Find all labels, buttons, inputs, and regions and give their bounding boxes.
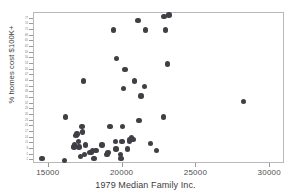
y-axis-tick-label: 38 (25, 90, 28, 93)
data-point (125, 146, 130, 151)
y-axis-tick (29, 52, 33, 53)
data-point (118, 156, 123, 161)
y-axis-tick (29, 35, 33, 36)
y-axis-tick (29, 74, 33, 75)
x-axis-tick (122, 163, 123, 167)
y-axis-tick-label: 23 (25, 118, 28, 121)
y-axis-tick (29, 23, 33, 24)
data-point (166, 12, 171, 17)
data-point (39, 156, 44, 161)
y-axis-tick (29, 108, 33, 109)
data-point (80, 129, 85, 134)
data-point (148, 141, 153, 146)
y-axis-tick (29, 57, 33, 58)
y-axis-tick-label: 14 (25, 135, 28, 138)
x-axis-tick-label: 30000 (258, 168, 281, 177)
data-point (62, 158, 67, 163)
data-point (114, 56, 119, 61)
y-axis-tick (29, 148, 33, 149)
y-axis-tick-label: 59 (25, 50, 28, 53)
y-axis-tick (29, 91, 33, 92)
data-point (121, 86, 126, 91)
y-axis-tick (29, 97, 33, 98)
data-point (113, 139, 118, 144)
y-axis-tick-label: 8 (27, 146, 28, 149)
x-axis-title: 1979 Median Family Inc. (0, 180, 291, 190)
x-axis-tick (48, 163, 49, 167)
y-axis-tick (29, 142, 33, 143)
data-point (83, 142, 88, 147)
y-axis-title: % homes cost $100K+ (7, 5, 16, 125)
data-point (132, 78, 137, 83)
y-axis-tick-label: 71 (25, 27, 28, 30)
y-axis-tick (29, 69, 33, 70)
data-point (79, 124, 84, 129)
y-axis-tick (29, 137, 33, 138)
data-point (111, 27, 116, 32)
y-axis-tick (29, 80, 33, 81)
data-points-layer (34, 13, 283, 162)
y-axis-tick (29, 63, 33, 64)
y-axis-tick-label: 29 (25, 107, 28, 110)
data-point (143, 27, 148, 32)
y-axis-tick-label: 41 (25, 84, 28, 87)
x-axis-tick-label: 20000 (110, 168, 133, 177)
y-axis-tick (29, 86, 33, 87)
y-axis-tick-label: 20 (25, 124, 28, 127)
data-point (122, 67, 127, 72)
data-point (107, 124, 112, 129)
data-point (74, 131, 79, 136)
data-point (163, 27, 168, 32)
data-point (81, 78, 86, 83)
y-axis-tick-label: 68 (25, 33, 28, 36)
data-point (63, 114, 68, 119)
data-point (165, 61, 170, 66)
y-axis-tick (29, 120, 33, 121)
y-axis-tick-label: 11 (25, 141, 28, 144)
data-point (135, 18, 140, 23)
data-point (93, 148, 98, 153)
data-point (120, 124, 125, 129)
y-axis-tick-label: 5 (27, 152, 28, 155)
plot-area (33, 12, 284, 163)
y-axis-tick-label: 2 (27, 158, 28, 161)
y-axis-tick-label: 26 (25, 112, 28, 115)
y-axis-tick (29, 125, 33, 126)
data-point (91, 156, 96, 161)
y-axis-tick-label: 50 (25, 67, 28, 70)
x-axis-tick-label: 25000 (184, 168, 207, 177)
y-axis-tick (29, 46, 33, 47)
data-point (154, 148, 159, 153)
y-axis-tick (29, 114, 33, 115)
data-point (76, 144, 81, 149)
y-axis-tick-label: 47 (25, 73, 28, 76)
data-point (119, 139, 124, 144)
y-axis-tick-label: 77 (25, 16, 28, 19)
y-axis-tick-label: 53 (25, 61, 28, 64)
data-point (142, 84, 147, 89)
data-point (161, 114, 166, 119)
scatter-chart: 15000200002500030000 2581114172023262932… (0, 0, 291, 194)
data-point (99, 142, 104, 147)
y-axis-tick (29, 103, 33, 104)
data-point (138, 93, 143, 98)
y-axis-tick-label: 62 (25, 44, 28, 47)
data-point (113, 146, 118, 151)
y-axis-tick-label: 56 (25, 56, 28, 59)
y-axis-tick (29, 29, 33, 30)
y-axis-tick-label: 65 (25, 39, 28, 42)
y-axis-tick-label: 17 (25, 129, 28, 132)
y-axis-tick-label: 32 (25, 101, 28, 104)
y-axis-tick-label: 74 (25, 22, 28, 25)
y-axis-tick (29, 154, 33, 155)
x-axis-tick-label: 15000 (36, 168, 59, 177)
data-point (241, 99, 246, 104)
x-axis-tick (269, 163, 270, 167)
data-point (130, 137, 135, 142)
y-axis-tick-label: 44 (25, 78, 28, 81)
data-point (105, 150, 110, 155)
y-axis-tick (29, 159, 33, 160)
y-axis-tick (29, 131, 33, 132)
data-point (136, 118, 141, 123)
data-point (76, 139, 81, 144)
